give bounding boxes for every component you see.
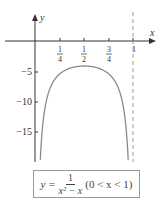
y-axis-label: y: [39, 12, 45, 23]
formula-lhs: y =: [41, 178, 56, 190]
xtick-3quarter-den: 4: [107, 55, 111, 64]
formula-fraction: 1 x² − x: [59, 173, 83, 196]
ytick-minus5: −5: [21, 66, 32, 77]
xtick-half-num: 1: [82, 45, 86, 54]
x-axis-arrow-icon: [149, 38, 156, 44]
formula-condition: (0 < x < 1): [85, 178, 132, 190]
x-tick-labels: 1 4 1 2 3 4 1: [57, 45, 136, 64]
xtick-quarter-num: 1: [58, 45, 62, 54]
ytick-minus15: −15: [16, 126, 32, 137]
formula-numerator: 1: [66, 173, 75, 185]
formula-denominator: x² − x: [59, 185, 83, 196]
formula-box: y = 1 x² − x (0 < x < 1): [33, 170, 140, 198]
y-tick-labels: −5 −10 −15: [16, 66, 32, 137]
x-axis-label: x: [149, 27, 155, 38]
ytick-minus10: −10: [16, 96, 32, 107]
function-curve: [40, 66, 128, 160]
xtick-quarter-den: 4: [58, 55, 62, 64]
y-axis-arrow-icon: [32, 14, 38, 21]
xtick-3quarter-num: 3: [107, 45, 111, 54]
xtick-half-den: 2: [82, 55, 86, 64]
